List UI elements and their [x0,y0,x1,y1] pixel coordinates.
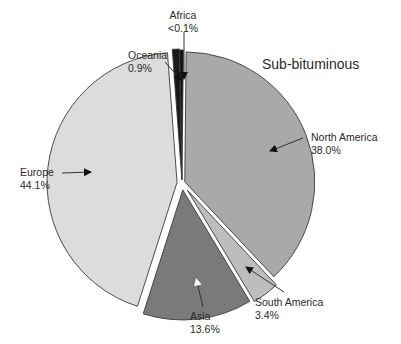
label-africa: Africa <0.1% [168,9,198,35]
label-oceania-value: 0.9% [128,62,167,75]
label-oceania: Oceania 0.9% [128,49,167,75]
label-south-america-name: South America [255,296,323,309]
label-africa-name: Africa [168,9,198,22]
label-asia-name: Asia [190,310,220,323]
label-africa-value: <0.1% [168,22,198,35]
label-north-america-value: 38.0% [311,144,378,157]
label-asia-value: 13.6% [190,323,220,336]
chart-title: Sub-bituminous [262,56,359,72]
pie-chart [0,0,401,344]
label-south-america-value: 3.4% [255,309,323,322]
label-north-america: North America 38.0% [311,131,378,157]
label-asia: Asia 13.6% [190,310,220,336]
label-europe-name: Europe [20,166,54,179]
label-south-america: South America 3.4% [255,296,323,322]
label-oceania-name: Oceania [128,49,167,62]
label-north-america-name: North America [311,131,378,144]
label-europe-value: 44.1% [20,179,54,192]
label-europe: Europe 44.1% [20,166,54,192]
